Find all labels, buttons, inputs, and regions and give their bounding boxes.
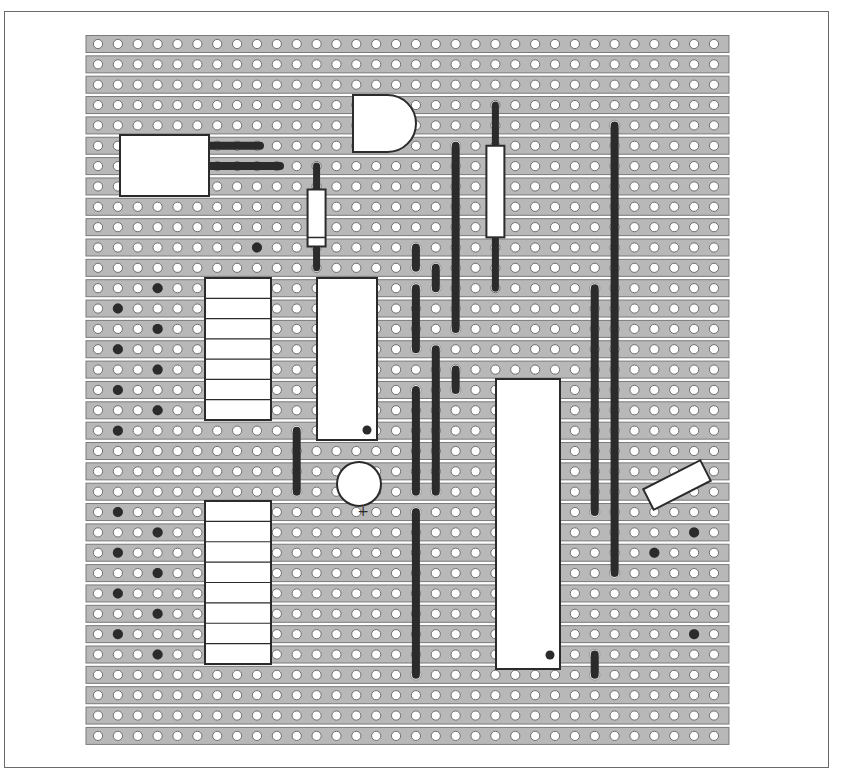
hole <box>272 243 281 252</box>
hole <box>590 609 599 618</box>
hole <box>93 121 102 130</box>
hole <box>431 223 440 232</box>
hole <box>511 304 520 313</box>
hole <box>650 630 659 639</box>
hole <box>153 548 162 557</box>
hole <box>590 80 599 89</box>
hole <box>173 548 182 557</box>
hole <box>451 406 460 415</box>
hole <box>332 162 341 171</box>
hole <box>451 548 460 557</box>
hole <box>491 670 500 679</box>
hole <box>332 569 341 578</box>
hole <box>550 365 559 374</box>
hole <box>531 243 540 252</box>
hole <box>431 162 440 171</box>
hole <box>272 630 281 639</box>
hole <box>570 263 579 272</box>
hole <box>491 324 500 333</box>
hole <box>471 100 480 109</box>
hole <box>690 39 699 48</box>
hole <box>471 385 480 394</box>
hole <box>93 80 102 89</box>
hole <box>232 121 241 130</box>
hole <box>531 345 540 354</box>
hole <box>550 39 559 48</box>
hole <box>153 426 162 435</box>
hole <box>590 569 599 578</box>
hole <box>93 548 102 557</box>
hole <box>451 39 460 48</box>
hole <box>133 121 142 130</box>
hole <box>391 446 400 455</box>
hole <box>292 691 301 700</box>
hole <box>690 202 699 211</box>
hole <box>292 507 301 516</box>
hole <box>391 507 400 516</box>
hole <box>312 569 321 578</box>
hole <box>193 121 202 130</box>
hole <box>292 650 301 659</box>
hole <box>193 670 202 679</box>
hole <box>332 528 341 537</box>
hole <box>570 39 579 48</box>
hole <box>670 121 679 130</box>
hole <box>193 385 202 394</box>
hole <box>153 731 162 740</box>
hole <box>93 507 102 516</box>
hole <box>153 100 162 109</box>
hole <box>252 487 261 496</box>
hole <box>193 426 202 435</box>
hole <box>232 243 241 252</box>
hole <box>372 182 381 191</box>
hole <box>391 731 400 740</box>
hole <box>690 507 699 516</box>
hole <box>352 630 361 639</box>
hole <box>232 426 241 435</box>
hole <box>113 446 122 455</box>
hole <box>193 324 202 333</box>
hole <box>352 39 361 48</box>
hole <box>670 609 679 618</box>
hole <box>570 426 579 435</box>
hole <box>153 385 162 394</box>
hole <box>272 711 281 720</box>
hole <box>630 691 639 700</box>
hole <box>531 304 540 313</box>
hole <box>133 284 142 293</box>
hole <box>232 223 241 232</box>
hole <box>471 284 480 293</box>
hole <box>391 589 400 598</box>
hole <box>610 39 619 48</box>
hole <box>232 670 241 679</box>
hole <box>113 60 122 69</box>
hole <box>570 569 579 578</box>
hole <box>391 569 400 578</box>
hole <box>630 650 639 659</box>
hole <box>411 39 420 48</box>
hole <box>391 162 400 171</box>
hole <box>391 426 400 435</box>
hole <box>650 304 659 313</box>
hole <box>550 263 559 272</box>
hole <box>372 569 381 578</box>
hole <box>511 243 520 252</box>
hole <box>93 711 102 720</box>
hole <box>213 711 222 720</box>
hole <box>570 304 579 313</box>
hole <box>352 223 361 232</box>
hole <box>173 80 182 89</box>
hole <box>590 731 599 740</box>
hole <box>570 284 579 293</box>
hole <box>531 141 540 150</box>
hole <box>193 711 202 720</box>
hole <box>709 304 718 313</box>
hole <box>213 100 222 109</box>
hole <box>193 731 202 740</box>
hole <box>690 650 699 659</box>
hole <box>690 609 699 618</box>
hole <box>709 731 718 740</box>
hole <box>471 202 480 211</box>
hole <box>312 528 321 537</box>
hole <box>292 223 301 232</box>
